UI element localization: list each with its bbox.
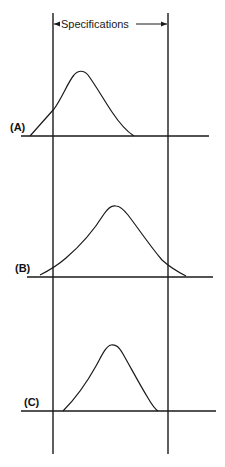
- distribution-curve-b: [40, 206, 186, 276]
- panel-b: (B): [15, 206, 213, 277]
- left-arrow-icon: [54, 22, 60, 27]
- right-arrow-icon: [161, 22, 167, 27]
- panel-a: (A): [10, 71, 209, 136]
- distribution-curve-c: [63, 345, 158, 411]
- distribution-curve-a: [30, 71, 134, 136]
- panel-label-b: (B): [15, 262, 31, 274]
- specifications-dimension: Specifications: [54, 18, 167, 30]
- panel-label-a: (A): [10, 121, 26, 133]
- panel-label-c: (C): [24, 396, 40, 408]
- specifications-label: Specifications: [61, 18, 129, 30]
- panel-c: (C): [21, 345, 216, 411]
- spec-diagram: Specifications (A) (B) (C): [0, 0, 225, 467]
